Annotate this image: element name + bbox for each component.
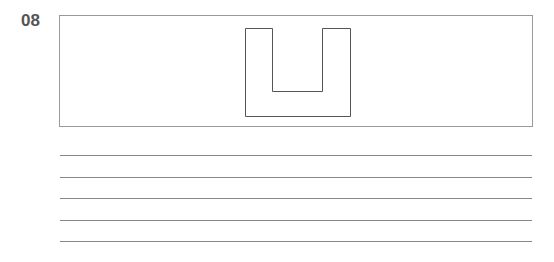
answer-line-1[interactable] — [60, 155, 532, 156]
answer-line-4[interactable] — [60, 220, 532, 221]
answer-line-3[interactable] — [60, 198, 532, 199]
answer-line-2[interactable] — [60, 177, 532, 178]
answer-line-5[interactable] — [60, 241, 532, 242]
u-shape-figure — [0, 0, 554, 262]
